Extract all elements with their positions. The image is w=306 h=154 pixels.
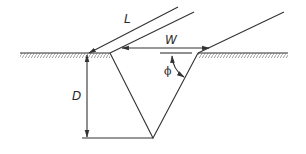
- width-label: W: [165, 33, 178, 47]
- ground-surface-right: [198, 53, 288, 58]
- trench-edge-right: [198, 12, 284, 53]
- length-label: L: [124, 12, 131, 26]
- trench-profile: [110, 53, 198, 138]
- trench-diagram: L W D ϕ: [0, 0, 306, 154]
- trench-edge-left: [110, 12, 194, 53]
- angle-label: ϕ: [164, 65, 172, 78]
- angle-arc: [172, 56, 184, 77]
- depth-label: D: [72, 89, 81, 103]
- ground-surface-left: [20, 53, 110, 58]
